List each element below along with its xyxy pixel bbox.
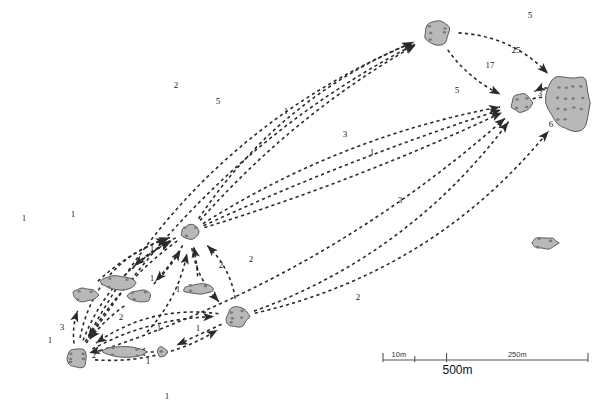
scale-tick-label-left: 10m: [392, 350, 407, 359]
node-polygon: [127, 290, 150, 302]
node-speckle: [81, 353, 84, 356]
edge-weight-label: 2: [92, 350, 97, 360]
node-speckle: [564, 98, 567, 101]
node-speckle: [230, 321, 233, 324]
node-speckle: [185, 235, 188, 238]
node-speckle: [525, 106, 528, 109]
node-speckle: [189, 289, 192, 292]
node-speckle: [515, 107, 518, 110]
nodes-layer: [67, 21, 590, 368]
edge-weight-label: 1: [176, 284, 181, 294]
edge-weight-label: 1: [48, 335, 53, 345]
edge-weight-label: 1: [284, 106, 289, 116]
node-speckle: [231, 317, 234, 320]
edge-weight-label: 1: [195, 263, 200, 273]
node-speckle: [69, 358, 72, 361]
node-speckle: [538, 238, 541, 241]
node-speckle: [111, 347, 114, 350]
node-speckle: [133, 298, 136, 301]
edge-arrowhead: [206, 326, 220, 339]
scale-tick-label-right: 250m: [508, 350, 527, 359]
edge-weight-label: 1: [150, 273, 155, 283]
map-node: [532, 238, 559, 250]
node-speckle: [565, 87, 568, 90]
node-speckle: [69, 353, 72, 356]
edge-arrowhead: [204, 242, 218, 256]
edge-weight-label: 1: [22, 213, 27, 223]
node-polygon: [226, 307, 250, 328]
node-speckle: [580, 108, 583, 111]
node-speckle: [76, 298, 79, 301]
map-node: [183, 284, 213, 294]
edge-arrowhead: [208, 291, 222, 305]
node-speckle: [136, 355, 139, 358]
edge-weight-label: 1: [370, 147, 375, 157]
node-speckle: [557, 86, 560, 89]
map-node: [67, 349, 86, 368]
edge-path: [94, 118, 506, 353]
node-speckle: [77, 290, 80, 293]
edge-weight-label: 17: [486, 60, 496, 70]
node-speckle: [131, 291, 134, 294]
map-node: [425, 21, 450, 46]
node-speckle: [194, 227, 197, 230]
node-speckle: [556, 108, 559, 111]
node-polygon: [100, 276, 136, 290]
map-node: [157, 347, 167, 357]
edge-weight-label: 1: [146, 356, 151, 366]
node-polygon: [425, 21, 450, 46]
edge-arrowhead: [489, 86, 503, 99]
node-speckle: [556, 97, 559, 100]
edge-weight-label: 2: [219, 260, 224, 270]
node-speckle: [443, 31, 446, 34]
edge-arrowhead: [181, 252, 192, 265]
edge-arrowhead: [537, 63, 551, 77]
map-node: [102, 347, 147, 358]
node-speckle: [428, 25, 431, 28]
node-speckle: [579, 85, 582, 88]
edge-path: [459, 33, 549, 74]
node-speckle: [204, 285, 207, 288]
edge-weight-label: 5: [528, 10, 533, 20]
edge-arrowhead: [70, 309, 81, 322]
edge-weight-label: 1: [150, 243, 155, 253]
edge-arrowhead: [175, 337, 189, 349]
edge-weight-label: 1: [196, 323, 201, 333]
edge-weight-label: 1: [165, 391, 170, 401]
node-speckle: [125, 279, 128, 282]
node-speckle: [189, 284, 192, 287]
map-node: [100, 276, 136, 290]
scale-total-label: 500m: [442, 363, 472, 377]
edge-labels-layer: 5251753625131321111221131211211: [22, 10, 554, 401]
edge-weight-label: 2: [174, 80, 179, 90]
edge-weight-label: 3: [60, 322, 65, 332]
node-speckle: [564, 108, 567, 111]
edge-weight-label: 5: [455, 85, 460, 95]
node-speckle: [183, 226, 186, 229]
node-polygon: [511, 94, 533, 113]
edge-weight-label: 3: [398, 195, 403, 205]
node-speckle: [82, 358, 85, 361]
edge-path: [204, 110, 501, 226]
edge-path: [199, 42, 414, 219]
edge-path: [255, 131, 549, 313]
node-speckle: [525, 97, 528, 100]
edge-path: [147, 253, 187, 332]
node-speckle: [556, 118, 559, 121]
node-speckle: [581, 97, 584, 100]
edge-weight-label: 2: [356, 292, 361, 302]
node-speckle: [572, 106, 575, 109]
node-polygon: [102, 347, 147, 358]
node-speckle: [549, 240, 552, 243]
node-speckle: [111, 354, 114, 357]
node-speckle: [135, 348, 138, 351]
node-speckle: [69, 361, 72, 364]
node-speckle: [108, 286, 111, 289]
edge-arrowhead: [171, 248, 184, 262]
edge-weight-label: 25: [512, 45, 522, 55]
node-speckle: [240, 317, 243, 320]
edge-weight-label: 6: [549, 119, 554, 129]
node-speckle: [144, 291, 147, 294]
map-node: [127, 290, 150, 302]
node-polygon: [183, 284, 213, 294]
